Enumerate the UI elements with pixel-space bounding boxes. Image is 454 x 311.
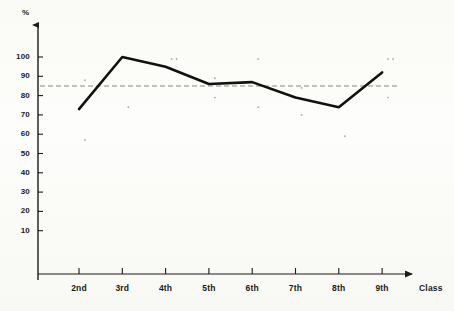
scatter-mark bbox=[392, 58, 394, 60]
scatter-mark bbox=[257, 106, 259, 108]
scatter-mark bbox=[257, 58, 259, 60]
scatter-mark bbox=[214, 97, 216, 99]
scatter-mark bbox=[84, 79, 86, 81]
scatter-mark bbox=[387, 97, 389, 99]
plot-area bbox=[0, 0, 454, 311]
scatter-mark bbox=[344, 135, 346, 137]
scatter-mark bbox=[301, 87, 303, 89]
scatter-mark bbox=[127, 106, 129, 108]
data-series-line bbox=[79, 57, 382, 109]
scatter-mark bbox=[171, 58, 173, 60]
x-tick-marks bbox=[79, 268, 382, 274]
scatter-mark bbox=[84, 139, 86, 141]
y-tick-marks bbox=[38, 57, 43, 231]
scatter-mark bbox=[214, 77, 216, 79]
scatter-mark bbox=[176, 58, 178, 60]
scatter-mark bbox=[301, 114, 303, 116]
chart-figure: % Class 102030405060708090100 2nd3rd4th5… bbox=[0, 0, 454, 311]
scatter-mark bbox=[387, 58, 389, 60]
